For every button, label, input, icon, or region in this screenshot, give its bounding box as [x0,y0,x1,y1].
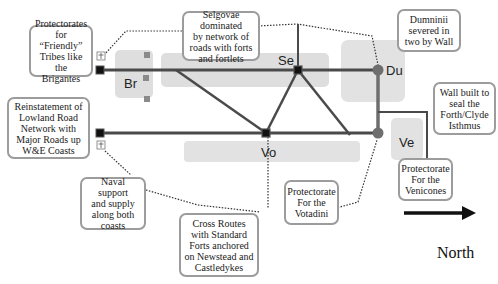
callout-protectorates-friendly: Protectorates for “Friendly” Tribes like… [29,25,93,77]
region-label-br: Br [124,76,138,91]
fortlet-icon [144,96,150,102]
callout-dumninii: Dumninii severed in two by Wall [397,9,461,52]
wall-terminus-circle-icon [373,128,384,139]
arrow-right-icon [404,206,476,220]
callout-votadini: Protectorate For the Votadini [284,180,339,225]
region-label-du: Du [386,63,403,78]
fort-square-icon [294,66,302,74]
fortlet-icon [144,52,150,58]
callout-reinstatement: Reinstatement of Lowland Road Network wi… [7,97,90,159]
leader-anchor-to-naval [105,151,131,175]
callout-naval: Naval support and supply along both coas… [80,177,146,230]
fort-square-icon [96,66,104,74]
anchor-icon [97,141,105,149]
region-label-vo: Vo [261,145,276,160]
leader-naval-to-vo [146,190,260,212]
region-label-ve: Ve [399,135,414,150]
anchor-icon [97,52,105,60]
fort-square-icon [262,129,270,137]
callout-selgovae: Selgovae dominated by network of roads w… [182,11,260,61]
callout-venicones: Protectorate For the Venicones [398,158,453,201]
callout-wall: Wall built to seal the Forth/Clyde Isthm… [433,82,496,135]
wall-terminus-circle-icon [373,65,384,76]
region-label-se: Se [278,53,294,68]
north-label: North [437,244,474,262]
fortlet-icon [143,75,149,81]
callout-cross-routes: Cross Routes with Standard Forts anchore… [179,213,259,277]
fort-square-icon [96,129,104,137]
